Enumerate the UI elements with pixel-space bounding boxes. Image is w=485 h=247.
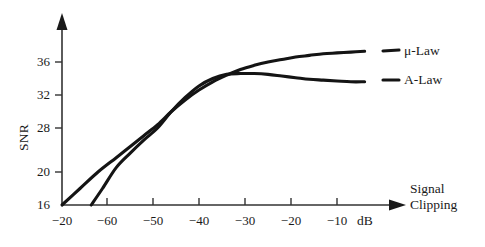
legend-marker-mu-law — [383, 50, 399, 51]
y-axis-title: SNR — [16, 124, 31, 151]
y-tick-label-20: 20 — [14, 165, 50, 178]
x-axis-ticks — [107, 198, 337, 205]
x-axis-title-line1: Signal — [410, 181, 445, 196]
x-axis-title-line2: Clipping — [410, 197, 457, 212]
x-tick-label-4: −30 — [223, 214, 267, 227]
x-axis-unit-label: dB — [357, 213, 373, 228]
series-label-a-law: A-Law — [404, 73, 442, 87]
series-label-mu-law: μ-Law — [404, 44, 440, 58]
x-tick-label-1: −60 — [85, 214, 129, 227]
x-tick-label-3: −40 — [177, 214, 221, 227]
y-tick-label-16: 16 — [14, 198, 50, 211]
x-axis-arrow-icon — [389, 200, 406, 211]
snr-vs-signal-clipping-chart: 36 32 28 20 16 −20 −60 −50 −40 −30 −20 −… — [0, 0, 485, 247]
y-tick-label-36: 36 — [14, 55, 50, 68]
y-axis-arrow-icon — [57, 13, 68, 30]
x-tick-label-0: −20 — [40, 214, 84, 227]
y-tick-label-32: 32 — [14, 88, 50, 101]
x-tick-label-2: −50 — [131, 214, 175, 227]
series-line-a-law — [91, 73, 364, 205]
x-tick-label-6: −10 — [315, 214, 359, 227]
y-axis-ticks — [55, 62, 62, 172]
x-tick-label-5: −20 — [269, 214, 313, 227]
